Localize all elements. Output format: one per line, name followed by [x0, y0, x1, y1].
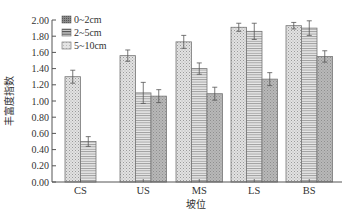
y-tick-label: 1.80 — [32, 31, 50, 42]
bar-US-2~5cm — [136, 93, 152, 182]
bar-LS-0~2cm — [231, 27, 247, 182]
legend-swatch — [62, 42, 71, 49]
legend-label: 0~2cm — [74, 14, 102, 25]
bar-LS-2~5cm — [247, 31, 263, 182]
legend: 0~2cm2~5cm5~10cm — [62, 14, 107, 51]
y-axis-title: 丰富度指数 — [3, 76, 15, 126]
x-tick-label: CS — [74, 185, 87, 196]
y-tick-label: 1.40 — [32, 63, 50, 74]
bar-MS-2~5cm — [192, 69, 208, 182]
bar-MS-5~10cm — [207, 94, 223, 182]
y-tick-label: 0.80 — [32, 112, 50, 123]
legend-swatch — [62, 29, 71, 36]
bar-BS-2~5cm — [302, 28, 318, 182]
bar-US-0~2cm — [120, 56, 136, 182]
y-tick-label: 0.40 — [32, 144, 50, 155]
legend-label: 5~10cm — [74, 40, 107, 51]
bar-CS-0~2cm — [65, 77, 81, 182]
legend-swatch — [62, 16, 71, 23]
bar-LS-5~10cm — [262, 79, 278, 182]
bar-MS-0~2cm — [176, 42, 192, 182]
x-tick-label: LS — [248, 185, 260, 196]
y-tick-label: 1.20 — [32, 79, 50, 90]
x-tick-label: US — [137, 185, 151, 196]
x-tick-label: BS — [303, 185, 316, 196]
y-tick-label: 2.00 — [32, 15, 50, 26]
bar-CS-2~5cm — [81, 142, 97, 183]
y-tick-label: 1.60 — [32, 47, 50, 58]
x-tick-label: MS — [192, 185, 207, 196]
bar-chart: 0.000.200.400.600.801.001.201.401.601.80… — [0, 0, 355, 216]
y-tick-label: 0.60 — [32, 128, 50, 139]
bar-US-5~10cm — [151, 96, 167, 182]
legend-label: 2~5cm — [74, 27, 102, 38]
y-tick-label: 0.00 — [32, 177, 50, 188]
bar-BS-5~10cm — [317, 56, 333, 182]
y-axis: 0.000.200.400.600.801.001.201.401.601.80… — [32, 15, 57, 188]
y-tick-label: 1.00 — [32, 96, 50, 107]
x-axis-title: 坡位 — [186, 198, 206, 210]
y-tick-label: 0.20 — [32, 160, 50, 171]
x-axis: CSUSMSLSBS — [52, 179, 342, 196]
bar-BS-0~2cm — [286, 26, 302, 182]
